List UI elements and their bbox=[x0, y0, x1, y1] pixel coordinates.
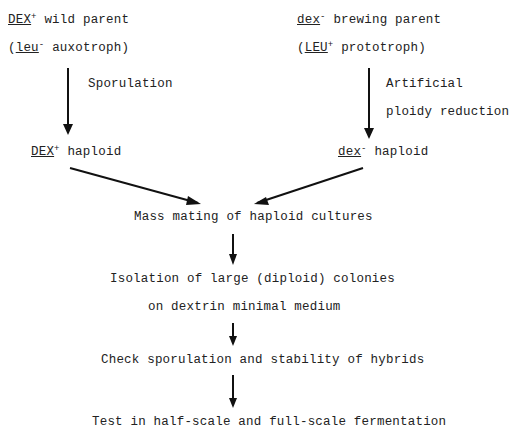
right-haploid: dex- haploid bbox=[338, 144, 428, 159]
right-parent-gene-sign: - bbox=[320, 12, 326, 22]
step-final-clipped: Test in half-scale and full-scale fermen… bbox=[92, 415, 446, 429]
right-parent-gene: dex bbox=[297, 13, 320, 27]
paren: ( bbox=[8, 41, 16, 55]
label-artificial: Artificial bbox=[386, 77, 463, 91]
right-haploid-gene: dex bbox=[338, 145, 361, 159]
label-ploidy-reduction: ploidy reduction bbox=[386, 105, 509, 119]
left-haploid-gene: DEX bbox=[31, 145, 54, 159]
right-parent-line1: dex- brewing parent bbox=[297, 12, 441, 27]
left-haploid-sign: + bbox=[54, 144, 60, 154]
step-mass-mating: Mass mating of haploid cultures bbox=[134, 210, 373, 224]
arrow-left-to-mating bbox=[70, 168, 198, 203]
right-haploid-label: haploid bbox=[374, 145, 428, 159]
label-sporulation: Sporulation bbox=[88, 77, 173, 91]
left-parent-label: wild parent bbox=[44, 13, 129, 27]
paren: ( bbox=[297, 41, 305, 55]
left-haploid-label: haploid bbox=[67, 145, 121, 159]
right-parent-marker-gene: LEU bbox=[305, 41, 328, 55]
left-parent-marker-label: auxotroph) bbox=[52, 41, 129, 55]
right-parent-marker-sign: + bbox=[328, 40, 334, 50]
left-parent-line2: (leu- auxotroph) bbox=[8, 40, 129, 55]
step-check-hybrids: Check sporulation and stability of hybri… bbox=[101, 353, 424, 367]
left-parent-gene-sign: + bbox=[31, 12, 37, 22]
right-haploid-sign: - bbox=[361, 144, 367, 154]
step-isolation-line1: Isolation of large (diploid) colonies bbox=[110, 272, 395, 286]
arrow-right-to-mating bbox=[257, 168, 363, 203]
right-parent-line2: (LEU+ prototroph) bbox=[297, 40, 426, 55]
step-isolation-line2: on dextrin minimal medium bbox=[148, 300, 341, 314]
right-parent-marker-label: prototroph) bbox=[341, 41, 426, 55]
right-parent-label: brewing parent bbox=[333, 13, 441, 27]
left-parent-marker-sign: - bbox=[39, 40, 45, 50]
left-haploid: DEX+ haploid bbox=[31, 144, 121, 159]
left-parent-marker-gene: leu bbox=[16, 41, 39, 55]
left-parent-line1: DEX+ wild parent bbox=[8, 12, 129, 27]
left-parent-gene: DEX bbox=[8, 13, 31, 27]
